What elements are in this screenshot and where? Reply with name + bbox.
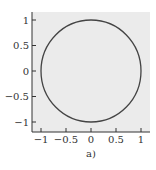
y-tick-label: 1 xyxy=(23,15,29,26)
x-tick-label: −1 xyxy=(34,134,49,145)
y-ticks: 10.50−0.5−1 xyxy=(5,15,36,128)
caption: a) xyxy=(86,148,96,159)
x-tick-label: 0.5 xyxy=(108,134,124,145)
x-tick-label: 1 xyxy=(138,134,144,145)
x-tick-label: −0.5 xyxy=(54,134,78,145)
y-tick-label: 0.5 xyxy=(13,40,29,51)
plot-area xyxy=(32,12,150,132)
chart: 10.50−0.5−1 −1−0.500.51 a) xyxy=(0,0,156,170)
x-tick-label: 0 xyxy=(88,134,94,145)
y-tick-label: 0 xyxy=(23,66,29,77)
y-tick-label: −1 xyxy=(14,117,29,128)
y-tick-label: −0.5 xyxy=(5,91,29,102)
